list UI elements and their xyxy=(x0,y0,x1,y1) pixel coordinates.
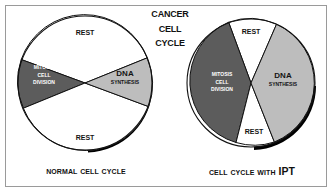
pie-cell-cycle-with-ipt xyxy=(187,19,316,150)
cancer-cell-cycle-figure: Cancer Cell Cycle Rest Mitosis Cell Divi… xyxy=(0,0,334,194)
caption-normal-cell-cycle: Normal Cell Cycle xyxy=(10,165,162,176)
caption-ipt-acronym: IPT xyxy=(278,165,295,177)
caption-ipt-prefix: Cell Cycle with xyxy=(209,166,278,177)
caption-cell-cycle-with-ipt: Cell Cycle with IPT xyxy=(176,165,328,177)
pie-normal-cell-cycle xyxy=(18,15,155,153)
